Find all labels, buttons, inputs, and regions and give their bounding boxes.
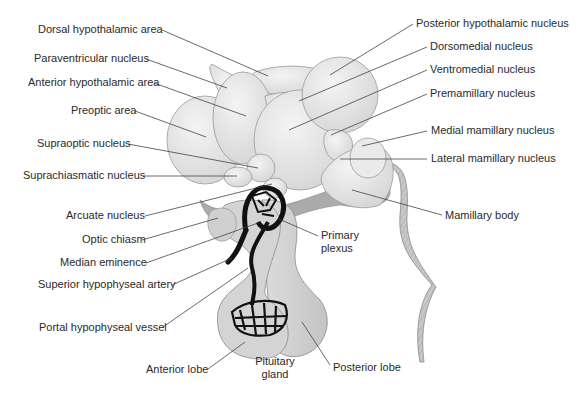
label-arcuate-nucleus: Arcuate nucleus (66, 209, 145, 222)
label-dorsomedial-nucleus: Dorsomedial nucleus (430, 40, 533, 53)
label-portal-hypophyseal-vessel: Portal hypophyseal vessel (39, 321, 167, 334)
suprachiasmatic-nucleus-shape (224, 167, 252, 187)
label-optic-chiasm: Optic chiasm (82, 233, 146, 246)
label-paraventricular-nucleus: Paraventricular nucleus (34, 52, 149, 65)
label-premamillary-nucleus: Premamillary nucleus (430, 87, 535, 100)
label-posterior-hypothalamic-nucleus: Posterior hypothalamic nucleus (416, 17, 569, 30)
label-mamillary-body: Mamillary body (445, 209, 519, 222)
label-pituitary-gland-line1: Pituitary (250, 355, 300, 368)
label-primary-plexus: Primary plexus (321, 229, 359, 255)
label-medial-mamillary-nucleus: Medial mamillary nucleus (431, 124, 555, 137)
medial-mamillary-nucleus-shape (350, 138, 386, 178)
label-suprachiasmatic-nucleus: Suprachiasmatic nucleus (23, 169, 145, 182)
label-ventromedial-nucleus: Ventromedial nucleus (430, 63, 535, 76)
label-preoptic-area: Preoptic area (71, 104, 136, 117)
label-dorsal-hypothalamic-area: Dorsal hypothalamic area (38, 23, 163, 36)
label-superior-hypophyseal-artery: Superior hypophyseal artery (38, 278, 176, 291)
label-supraoptic-nucleus: Supraoptic nucleus (37, 137, 131, 150)
label-lateral-mamillary-nucleus: Lateral mamillary nucleus (431, 152, 556, 165)
label-primary-plexus-line1: Primary (321, 229, 359, 242)
label-pituitary-gland: Pituitary gland (250, 355, 300, 381)
label-pituitary-gland-line2: gland (250, 368, 300, 381)
fornix-strand (385, 162, 436, 362)
label-anterior-lobe: Anterior lobe (146, 363, 208, 376)
label-median-eminence: Median eminence (60, 256, 147, 269)
label-anterior-hypothalamic-area: Anterior hypothalamic area (28, 76, 159, 89)
label-primary-plexus-line2: plexus (321, 242, 359, 255)
label-posterior-lobe: Posterior lobe (333, 361, 401, 374)
